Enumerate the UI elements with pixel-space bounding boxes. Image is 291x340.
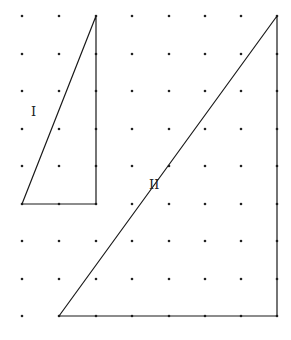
grid-dot [21, 53, 24, 56]
grid-dot [95, 240, 98, 243]
grid-dot [58, 240, 61, 243]
grid-dot [168, 278, 171, 281]
grid-dot [168, 128, 171, 131]
grid-dots [21, 15, 279, 318]
grid-dot [240, 278, 243, 281]
grid-dot [58, 128, 61, 131]
grid-dot [168, 240, 171, 243]
grid-dot [58, 53, 61, 56]
grid-dot [204, 278, 207, 281]
grid-dot [240, 90, 243, 93]
grid-dot [168, 203, 171, 206]
grid-dot [58, 15, 61, 18]
grid-dot [204, 203, 207, 206]
grid-dot [240, 128, 243, 131]
grid-dot [131, 278, 134, 281]
grid-dot [21, 15, 24, 18]
dot-grid-diagram: I II [0, 0, 291, 340]
grid-dot [131, 203, 134, 206]
grid-dot [204, 53, 207, 56]
grid-dot [21, 240, 24, 243]
grid-dot [204, 15, 207, 18]
grid-dot [58, 90, 61, 93]
triangle-I-label: I [31, 105, 36, 118]
grid-dot [240, 240, 243, 243]
grid-dot [58, 278, 61, 281]
grid-dot [131, 90, 134, 93]
grid-dot [131, 128, 134, 131]
grid-dot [131, 15, 134, 18]
grid-dot [204, 90, 207, 93]
grid-dot [131, 240, 134, 243]
grid-dot [204, 128, 207, 131]
triangle-II-label: II [149, 178, 159, 191]
grid-dot [168, 53, 171, 56]
grid-dot [21, 278, 24, 281]
diagram-svg [0, 0, 291, 340]
grid-dot [58, 165, 61, 168]
grid-dot [21, 90, 24, 93]
grid-dot [168, 90, 171, 93]
grid-dot [168, 15, 171, 18]
grid-dot [240, 15, 243, 18]
grid-dot [240, 203, 243, 206]
grid-dot [240, 53, 243, 56]
grid-dot [131, 53, 134, 56]
grid-dot [21, 128, 24, 131]
grid-dot [204, 240, 207, 243]
grid-dot [21, 315, 24, 318]
grid-dot [95, 278, 98, 281]
triangle-II [59, 16, 277, 316]
grid-dot [131, 165, 134, 168]
grid-dot [240, 165, 243, 168]
grid-dot [204, 165, 207, 168]
grid-dot [21, 165, 24, 168]
